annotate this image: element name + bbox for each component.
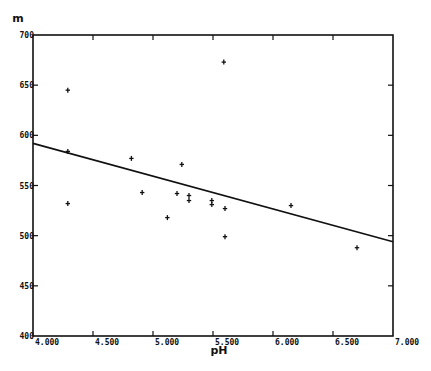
regression-line <box>33 143 393 241</box>
data-point <box>175 191 179 196</box>
x-tick-label: 6.000 <box>275 338 299 347</box>
data-point <box>187 198 191 203</box>
y-tick-label: 600 <box>20 131 35 140</box>
y-tick-label: 500 <box>20 232 35 241</box>
data-point <box>129 156 133 161</box>
data-point <box>223 234 227 239</box>
data-point <box>210 202 214 207</box>
regression-line-path <box>33 143 393 241</box>
scatter-chart: 4.0004.5005.0005.5006.0006.5007.000 4004… <box>0 0 431 371</box>
data-point <box>165 215 169 220</box>
y-tick-label: 400 <box>20 332 35 341</box>
data-points <box>66 60 360 251</box>
data-point <box>140 190 144 195</box>
data-point <box>187 193 191 198</box>
plot-frame <box>33 35 393 336</box>
y-axis-title: m <box>12 12 23 25</box>
x-tick-label: 4.500 <box>95 338 119 347</box>
x-tick-label: 6.500 <box>335 338 359 347</box>
x-tick-label: 7.000 <box>395 338 419 347</box>
y-tick-labels: 400450500550600650700 <box>20 31 35 341</box>
y-tick-label: 550 <box>20 182 35 191</box>
data-point <box>289 203 293 208</box>
y-tick-label: 700 <box>20 31 35 40</box>
x-axis-title: pH <box>210 344 227 357</box>
x-tick-label: 5.000 <box>155 338 179 347</box>
data-point <box>223 206 227 211</box>
y-tick-label: 650 <box>20 81 35 90</box>
plot-border <box>33 35 393 336</box>
axis-ticks <box>33 35 393 336</box>
data-point <box>180 162 184 167</box>
data-point <box>222 60 226 65</box>
x-tick-label: 4.000 <box>35 338 59 347</box>
data-point <box>66 201 70 206</box>
y-tick-label: 450 <box>20 282 35 291</box>
data-point <box>355 245 359 250</box>
data-point <box>66 88 70 93</box>
